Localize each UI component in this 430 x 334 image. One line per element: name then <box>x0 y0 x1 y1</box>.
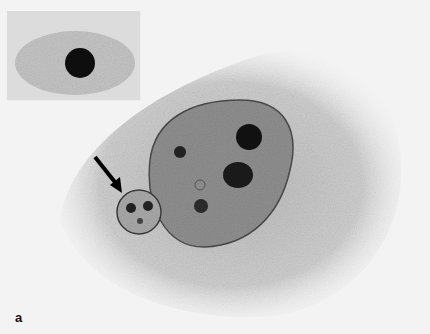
nucleolus-4 <box>194 199 208 213</box>
micrograph-figure: a <box>0 0 430 334</box>
nucleolus-2 <box>223 162 253 188</box>
inset-image <box>7 11 141 101</box>
small-body <box>117 190 161 234</box>
nucleolus-1 <box>236 124 262 150</box>
nucleolus-3 <box>174 146 186 158</box>
panel-label: a <box>15 310 22 325</box>
